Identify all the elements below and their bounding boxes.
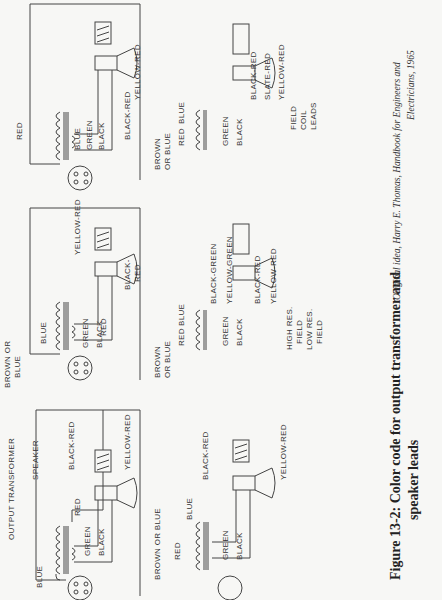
secondary-label-black: BLACK	[235, 118, 244, 146]
diagram-top-middle: BROWN OR BLUE BLUE RED GREEN BLACK BLACK…	[3, 199, 142, 388]
secondary-label-green: GREEN	[83, 526, 92, 556]
primary-label-blue-1: BLUE	[13, 356, 22, 378]
secondary-label-green: GREEN	[221, 316, 230, 346]
secondary-label-green: GREEN	[85, 120, 94, 150]
field-label-black-red: BLACK-RED	[201, 432, 210, 481]
primary-label-brown: BROWN	[153, 346, 162, 378]
primary-label-blue: BLUE	[185, 498, 194, 520]
field-label-slate-red: SLATE-RED	[263, 53, 272, 100]
field-label-black-red: BLACK-RED	[249, 52, 258, 101]
diagram-bottom-right: BROWN OR BLUE RED BLUE GREEN BLACK BLACK…	[153, 24, 318, 170]
diagram-output-transformer: OUTPUT TRANSFORMER SPEAKER BLUE RED GREE…	[7, 410, 140, 600]
field-label-yellow-red: YELLOW-RED	[123, 414, 132, 470]
diagram-bottom-middle: BROWN OR BLUE RED BLUE GREEN BLACK BLACK…	[153, 224, 324, 378]
secondary-label-black: BLACK	[235, 318, 244, 346]
group-label-field: FIELD	[289, 106, 298, 130]
figure-caption-line2: speaker leads	[406, 439, 421, 520]
figure-caption-line1: Figure 13-2: Color code for output trans…	[388, 272, 403, 580]
field-label-yellow-red: YELLOW-RED	[269, 248, 278, 304]
group-label-field-1: FIELD	[295, 320, 304, 344]
field-label-yellow-red: YELLOW-RED	[133, 44, 142, 100]
field-label-red: RED	[133, 264, 142, 282]
group-label-field-2: FIELD	[315, 320, 324, 344]
primary-label-red: RED	[177, 128, 186, 146]
group-label-leads: LEADS	[309, 102, 318, 130]
primary-label-red: RED	[15, 122, 24, 140]
primary-label-brown-or-blue: BROWN OR BLUE	[153, 508, 162, 580]
primary-label-blue: BLUE	[177, 102, 186, 124]
diagram-page: OUTPUT TRANSFORMER SPEAKER BLUE RED GREE…	[0, 0, 442, 600]
primary-label-brown-or: BROWN OR	[3, 341, 12, 388]
field-label-black-red: BLACK-RED	[123, 92, 132, 141]
field-label-yellow-red: YELLOW-RED	[277, 44, 286, 100]
diagram-bottom-left: BROWN OR BLUE RED BLUE GREEN BLACK BLACK…	[153, 424, 288, 600]
primary-label-or-blue: OR BLUE	[163, 341, 172, 378]
primary-label-brown: BROWN	[153, 138, 162, 170]
secondary-label-green: GREEN	[221, 530, 230, 560]
field-label-yellow-green: YELLOW-GREEN	[225, 236, 234, 304]
secondary-label-green: GREEN	[221, 116, 230, 146]
primary-label-red: RED	[173, 542, 182, 560]
diagram-top-right: RED BLUE GREEN BLACK BLACK-RED YELLOW-RE…	[15, 4, 142, 190]
field-label-black: BLACK-	[123, 259, 132, 290]
credit-line2: Electricians, 1965	[406, 50, 416, 121]
group-label-low-res: LOW RES.	[305, 308, 314, 350]
field-label-black-green: BLACK-GREEN	[209, 243, 218, 304]
title-label: OUTPUT TRANSFORMER	[7, 438, 16, 540]
field-label-yellow-red: YELLOW-RED	[279, 424, 288, 480]
primary-label-blue: BLUE	[73, 128, 82, 150]
group-label-coil: COIL	[299, 110, 308, 130]
primary-label-blue: BLUE	[177, 304, 186, 326]
primary-label-red: RED	[73, 498, 82, 516]
credit-line1: Original idea, Harry E. Thomas, Handbook…	[392, 62, 402, 300]
group-label-high-res: HIGH RES.	[285, 306, 294, 350]
primary-label-or-blue: OR BLUE	[163, 133, 172, 170]
field-label-black-red: BLACK-RED	[253, 256, 262, 305]
primary-label-red: RED	[177, 328, 186, 346]
primary-label-blue-2: BLUE	[39, 322, 48, 344]
field-label-black-red: BLACK-RED	[67, 422, 76, 471]
secondary-label-green: GREEN	[81, 318, 90, 348]
